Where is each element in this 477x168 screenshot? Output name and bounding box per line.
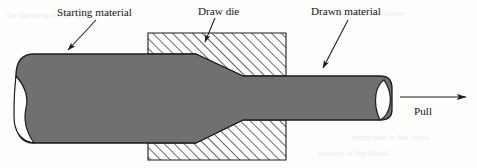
pull-label: Pull (414, 105, 432, 117)
ghost-line: section of the blank (318, 148, 389, 158)
drawn-material-label: Drawn material (311, 5, 381, 17)
drawn-material-leader (323, 20, 348, 68)
starting-material-arrow (68, 20, 96, 50)
drawn-material-arrow (323, 20, 348, 68)
starting-material-label: Starting material (57, 6, 132, 18)
draw-die-label: Draw die (198, 5, 239, 17)
diagram-canvas: the drawing of the bar material to the s… (0, 0, 477, 168)
workpiece-body (16, 54, 392, 143)
ghost-line: reduction in the cross (352, 132, 430, 142)
starting-material-leader (68, 20, 96, 50)
wire-drawing-diagram: the drawing of the bar material to the s… (0, 0, 477, 168)
pull-force-indicator: Pull (400, 97, 466, 117)
workpiece (14, 54, 392, 143)
